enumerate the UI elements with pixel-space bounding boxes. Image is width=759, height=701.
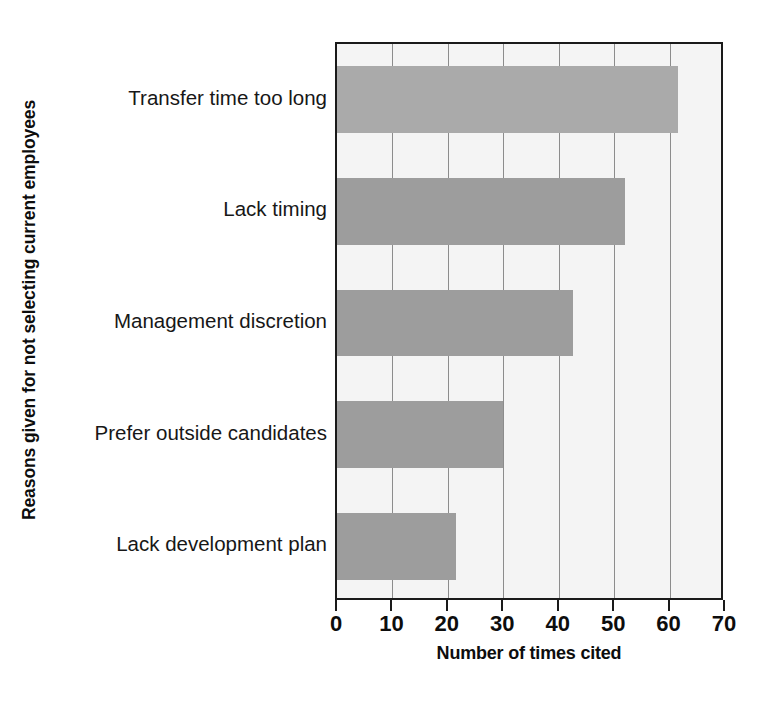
x-tick-mark-50 xyxy=(612,600,614,611)
x-tick-label-50: 50 xyxy=(583,611,643,637)
x-tick-label-30: 30 xyxy=(472,611,532,637)
x-tick-label-60: 60 xyxy=(639,611,699,637)
x-tick-label-70: 70 xyxy=(694,611,754,637)
x-tick-mark-20 xyxy=(446,600,448,611)
bar xyxy=(337,401,503,468)
x-tick-mark-70 xyxy=(723,600,725,611)
bar-chart-figure: Reasons given for not selecting current … xyxy=(0,0,759,701)
x-axis-title: Number of times cited xyxy=(335,643,723,664)
y-tick-label-4: Lack development plan xyxy=(7,532,327,556)
x-tick-mark-40 xyxy=(557,600,559,611)
y-tick-label-0: Transfer time too long xyxy=(7,86,327,110)
x-tick-label-10: 10 xyxy=(361,611,421,637)
bar xyxy=(337,513,456,580)
bar xyxy=(337,290,573,357)
x-tick-label-0: 0 xyxy=(306,611,366,637)
x-tick-label-20: 20 xyxy=(417,611,477,637)
x-tick-mark-30 xyxy=(501,600,503,611)
y-tick-label-1: Lack timing xyxy=(7,197,327,221)
bar xyxy=(337,66,678,133)
x-tick-label-40: 40 xyxy=(528,611,588,637)
x-tick-mark-0 xyxy=(335,600,337,611)
x-tick-mark-60 xyxy=(668,600,670,611)
bar xyxy=(337,178,625,245)
plot-area xyxy=(335,42,723,600)
y-tick-label-3: Prefer outside candidates xyxy=(7,421,327,445)
y-tick-label-2: Management discretion xyxy=(7,309,327,333)
x-tick-mark-10 xyxy=(390,600,392,611)
